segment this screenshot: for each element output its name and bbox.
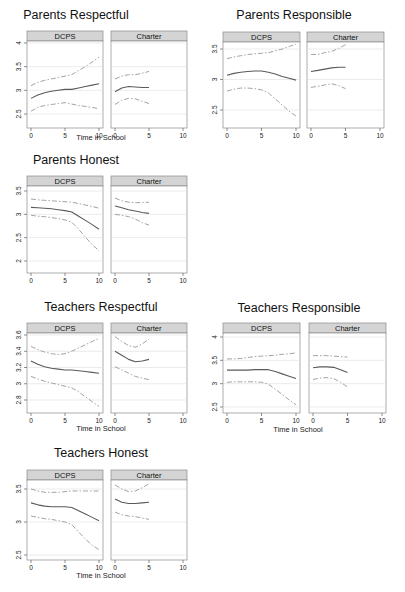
chart-title: Teachers Responsible [238, 301, 361, 315]
facet-label: Charter [136, 32, 162, 41]
facet-label: Charter [136, 177, 162, 186]
facet-label: DCPS [55, 32, 76, 41]
facet-dcps: DCPS22.533.50510 [15, 176, 103, 284]
facet-label: DCPS [55, 471, 76, 480]
plot-area [27, 186, 103, 273]
chart-title: Teachers Honest [54, 446, 148, 460]
facet-dcps: DCPS2.533.50510 [15, 470, 103, 571]
plot-area [223, 333, 300, 413]
y-tick-label: 3.5 [211, 44, 218, 53]
facet-label: DCPS [55, 177, 76, 186]
x-tick-label: 10 [292, 417, 300, 424]
chart-title: Parents Respectful [23, 8, 129, 22]
facet-dcps: DCPS2.833.23.43.60510 [15, 323, 103, 424]
x-tick-label: 5 [344, 132, 348, 139]
y-tick-label: 2.8 [15, 395, 22, 404]
plot-area [307, 42, 384, 128]
y-tick-label: 2 [15, 259, 22, 263]
facet-label: Charter [335, 324, 361, 333]
y-tick-label: 3.4 [15, 346, 22, 355]
x-tick-label: 5 [63, 564, 67, 571]
x-tick-label: 10 [95, 277, 103, 284]
facet-label: Charter [333, 33, 359, 42]
x-tick-label: 0 [309, 132, 313, 139]
chart-panel-teachers-respectful: Teachers RespectfulDCPS2.833.23.43.60510… [15, 300, 187, 433]
facet-charter: Charter0510 [111, 31, 187, 139]
x-tick-label: 10 [179, 132, 187, 139]
faceted-line-charts: Parents RespectfulDCPS2.533.540510Charte… [0, 0, 405, 592]
facet-label: DCPS [251, 324, 272, 333]
chart-panel-parents-honest: Parents HonestDCPS22.533.50510Charter051… [15, 153, 187, 284]
plot-area [223, 42, 300, 128]
y-tick-label: 3 [15, 520, 22, 524]
y-tick-label: 3.5 [211, 355, 218, 364]
chart-panel-teachers-responsible: Teachers ResponsibleDCPS2.533.540510Char… [211, 301, 386, 434]
plot-area [111, 186, 187, 273]
facet-label: Charter [136, 471, 162, 480]
y-tick-label: 3 [211, 381, 218, 385]
facet-charter: Charter0510 [307, 32, 384, 139]
y-tick-label: 4 [211, 335, 218, 339]
x-tick-label: 10 [95, 564, 103, 571]
x-tick-label: 10 [179, 564, 187, 571]
plot-area [111, 41, 187, 128]
x-tick-label: 0 [113, 564, 117, 571]
chart-title: Parents Responsible [236, 8, 351, 22]
plot-area [111, 333, 187, 413]
x-tick-label: 0 [113, 277, 117, 284]
x-tick-label: 5 [260, 417, 264, 424]
x-tick-label: 0 [225, 417, 229, 424]
facet-label: DCPS [55, 324, 76, 333]
x-tick-label: 10 [378, 417, 386, 424]
chart-panel-parents-respectful: Parents RespectfulDCPS2.533.540510Charte… [15, 8, 187, 142]
y-tick-label: 3.5 [15, 484, 22, 493]
x-tick-label: 5 [147, 417, 151, 424]
x-tick-label: 0 [29, 132, 33, 139]
x-tick-label: 10 [95, 417, 103, 424]
y-tick-label: 3 [15, 382, 22, 386]
x-tick-label: 5 [63, 132, 67, 139]
x-tick-label: 0 [29, 564, 33, 571]
y-tick-label: 2.5 [211, 402, 218, 411]
plot-area [111, 480, 187, 560]
x-tick-label: 5 [147, 564, 151, 571]
y-tick-label: 4 [15, 41, 22, 45]
x-axis-title: Time in School [76, 133, 126, 142]
facet-label: Charter [136, 324, 162, 333]
x-axis-title: Time in School [76, 571, 126, 580]
x-axis-title: Time in School [76, 424, 126, 433]
y-tick-label: 3.5 [15, 186, 22, 195]
y-tick-label: 2.5 [15, 550, 22, 559]
x-tick-label: 5 [63, 277, 67, 284]
y-tick-label: 2.5 [211, 105, 218, 114]
x-axis-title: Time in School [273, 425, 323, 434]
y-tick-label: 3 [15, 212, 22, 216]
chart-panel-parents-responsible: Parents ResponsibleDCPS2.533.50510Charte… [211, 8, 384, 139]
chart-title: Parents Honest [33, 153, 120, 167]
x-tick-label: 0 [311, 417, 315, 424]
y-tick-label: 2.5 [15, 233, 22, 242]
x-tick-label: 10 [179, 277, 187, 284]
facet-charter: Charter0510 [309, 323, 386, 424]
y-tick-label: 2.5 [15, 109, 22, 118]
x-tick-label: 5 [147, 277, 151, 284]
x-tick-label: 5 [147, 132, 151, 139]
facet-label: DCPS [251, 33, 272, 42]
y-tick-label: 3.6 [15, 330, 22, 339]
x-tick-label: 10 [179, 417, 187, 424]
facet-charter: Charter0510 [111, 176, 187, 284]
x-tick-label: 5 [63, 417, 67, 424]
facet-dcps: DCPS2.533.50510 [211, 32, 300, 139]
x-tick-label: 10 [292, 132, 300, 139]
x-tick-label: 0 [29, 277, 33, 284]
x-tick-label: 0 [113, 417, 117, 424]
facet-charter: Charter0510 [111, 470, 187, 571]
chart-title: Teachers Respectful [44, 300, 157, 314]
facet-charter: Charter0510 [111, 323, 187, 424]
x-tick-label: 10 [376, 132, 384, 139]
y-tick-label: 3.5 [15, 62, 22, 71]
x-tick-label: 0 [29, 417, 33, 424]
facet-dcps: DCPS2.533.540510 [15, 31, 103, 139]
facet-dcps: DCPS2.533.540510 [211, 323, 300, 424]
y-tick-label: 3 [211, 77, 218, 81]
